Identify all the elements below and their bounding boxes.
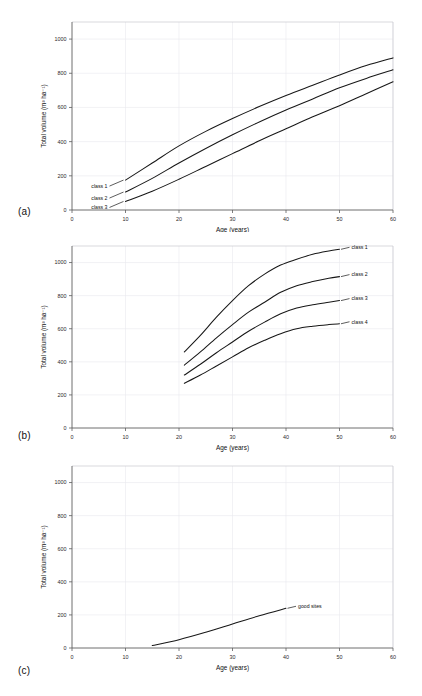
- x-tick-label: 30: [230, 654, 236, 660]
- x-tick-label: 20: [176, 216, 182, 222]
- chart-svg-a: 020040060080010000102030405060Age (years…: [0, 0, 422, 232]
- y-tick-label: 0: [64, 425, 67, 431]
- y-tick-label: 0: [64, 207, 67, 213]
- series-label: class 4: [352, 319, 368, 325]
- x-tick-label: 50: [337, 434, 343, 440]
- x-tick-label: 20: [176, 434, 182, 440]
- series-curve: [152, 608, 286, 645]
- x-tick-label: 0: [71, 216, 74, 222]
- x-tick-label: 60: [390, 654, 396, 660]
- y-tick-label: 0: [64, 645, 67, 651]
- y-tick-label: 1000: [55, 259, 67, 265]
- series-label: good sites: [298, 603, 322, 609]
- series-label: class 2: [352, 271, 368, 277]
- chart-panel-b: (b) 020040060080010000102030405060Age (y…: [0, 232, 422, 458]
- series-label: class 3: [352, 295, 368, 301]
- y-tick-label: 200: [58, 173, 67, 179]
- series-label-leader: [288, 606, 297, 608]
- x-tick-label: 20: [176, 654, 182, 660]
- x-tick-label: 0: [71, 434, 74, 440]
- y-tick-label: 400: [58, 579, 67, 585]
- chart-svg-c: 020040060080010000102030405060Age (years…: [0, 458, 422, 696]
- x-tick-label: 60: [390, 434, 396, 440]
- y-tick-label: 800: [58, 70, 67, 76]
- y-tick-label: 400: [58, 359, 67, 365]
- y-axis-title: Total volume (m³ ha⁻¹): [40, 84, 48, 147]
- y-axis-title: Total volume (m³ ha⁻¹): [40, 305, 48, 368]
- y-tick-label: 200: [58, 392, 67, 398]
- panel-letter-a: (a): [18, 206, 31, 217]
- y-tick-label: 800: [58, 513, 67, 519]
- series-curve: [184, 324, 339, 384]
- y-tick-label: 600: [58, 104, 67, 110]
- y-tick-label: 1000: [55, 36, 67, 42]
- series-curve: [184, 277, 339, 366]
- figure-root: (a) 020040060080010000102030405060Age (y…: [0, 0, 422, 696]
- x-tick-label: 50: [337, 216, 343, 222]
- x-tick-label: 30: [230, 216, 236, 222]
- series-label-leader: [110, 180, 124, 186]
- x-tick-label: 40: [283, 434, 289, 440]
- series-label: class 2: [91, 195, 107, 201]
- panel-letter-b: (b): [18, 430, 31, 441]
- y-tick-label: 600: [58, 326, 67, 332]
- series-curve: [126, 70, 394, 192]
- x-tick-label: 10: [123, 216, 129, 222]
- x-tick-label: 60: [390, 216, 396, 222]
- series-label-leader: [341, 275, 350, 277]
- series-label-leader: [341, 299, 350, 301]
- y-tick-label: 400: [58, 139, 67, 145]
- chart-svg-b: 020040060080010000102030405060Age (years…: [0, 232, 422, 458]
- y-tick-label: 200: [58, 612, 67, 618]
- chart-panel-a: (a) 020040060080010000102030405060Age (y…: [0, 0, 422, 232]
- x-tick-label: 10: [123, 654, 129, 660]
- x-tick-label: 50: [337, 654, 343, 660]
- y-tick-label: 1000: [55, 479, 67, 485]
- y-tick-label: 800: [58, 293, 67, 299]
- series-curve: [184, 301, 339, 375]
- x-axis-title: Age (years): [216, 444, 249, 452]
- chart-panel-c: (c) 020040060080010000102030405060Age (y…: [0, 458, 422, 696]
- series-label: class 3: [91, 204, 107, 210]
- series-curve: [184, 249, 339, 352]
- x-tick-label: 40: [283, 216, 289, 222]
- y-axis-title: Total volume (m³ ha⁻¹): [40, 525, 48, 588]
- x-tick-label: 40: [283, 654, 289, 660]
- y-tick-label: 600: [58, 546, 67, 552]
- series-label-leader: [341, 322, 350, 324]
- series-curve: [126, 58, 394, 180]
- series-label-leader: [341, 247, 350, 249]
- x-tick-label: 0: [71, 654, 74, 660]
- x-tick-label: 10: [123, 434, 129, 440]
- x-axis-title: Age (years): [216, 664, 249, 672]
- series-label-leader: [110, 192, 124, 198]
- x-tick-label: 30: [230, 434, 236, 440]
- series-label-leader: [110, 201, 124, 207]
- panel-letter-c: (c): [18, 665, 30, 676]
- series-label: class 1: [352, 244, 368, 250]
- series-label: class 1: [91, 183, 107, 189]
